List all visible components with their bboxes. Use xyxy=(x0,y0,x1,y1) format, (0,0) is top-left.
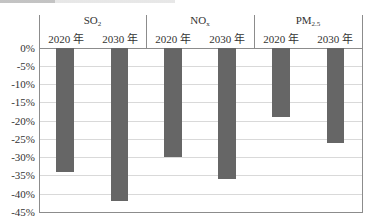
y-tick-label: -40% xyxy=(0,188,35,200)
group-label-base: SO xyxy=(84,14,98,26)
group-label-pm25: PM2.5 xyxy=(254,14,362,27)
year-label: 2030 年 xyxy=(311,33,359,45)
y-tick-label: 0% xyxy=(0,42,35,54)
gridline xyxy=(39,139,362,140)
y-tick-label: -20% xyxy=(0,115,35,127)
y-tick-label: -30% xyxy=(0,151,35,163)
bar-pm25-2020 xyxy=(272,48,290,117)
group-label-subscript: x xyxy=(206,20,210,28)
bar-so2-2030 xyxy=(111,48,128,201)
gridline xyxy=(39,66,362,67)
year-label: 2030 年 xyxy=(203,33,251,45)
bar-nox-2020 xyxy=(164,48,182,157)
y-tick-label: -10% xyxy=(0,78,35,90)
year-label: 2030 年 xyxy=(96,33,144,45)
bar-nox-2030 xyxy=(218,48,236,179)
gridline xyxy=(39,121,362,122)
y-tick-label: -5% xyxy=(0,60,35,72)
right-border xyxy=(362,15,363,213)
gridline xyxy=(39,84,362,85)
gridline xyxy=(39,175,362,176)
group-label-so2: SO2 xyxy=(39,14,146,27)
group-label-subscript: 2.5 xyxy=(312,20,321,28)
y-tick-label: -25% xyxy=(0,133,35,145)
y-axis-line xyxy=(39,15,40,213)
gridline xyxy=(39,194,362,195)
year-label: 2020 年 xyxy=(42,33,90,45)
group-label-subscript: 2 xyxy=(98,20,102,28)
gridline xyxy=(39,102,362,103)
bar-pm25-2030 xyxy=(327,48,344,143)
zero-line xyxy=(39,48,362,49)
group-label-base: PM xyxy=(296,14,312,26)
bar-so2-2020 xyxy=(56,48,74,172)
y-tick-label: -35% xyxy=(0,169,35,181)
y-tick-label: -45% xyxy=(0,206,35,218)
group-label-base: NO xyxy=(190,14,206,26)
gridline xyxy=(39,157,362,158)
year-label: 2020 年 xyxy=(149,33,197,45)
x-axis-bottom xyxy=(39,212,362,213)
group-label-nox: NOx xyxy=(146,14,254,27)
year-label: 2020 年 xyxy=(257,33,305,45)
y-tick-label: -15% xyxy=(0,96,35,108)
bar-chart: 0% -5% -10% -15% -20% -25% -30% -35% -40… xyxy=(0,0,369,222)
